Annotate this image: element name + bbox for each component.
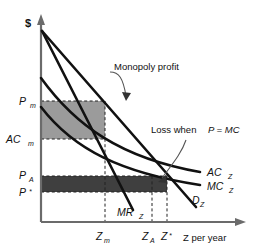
svg-text:P: P <box>19 186 26 198</box>
svg-text:*: * <box>169 232 172 239</box>
y-tick-pstar: P * <box>19 186 32 198</box>
svg-text:Z: Z <box>199 201 205 208</box>
svg-text:AC: AC <box>5 133 21 145</box>
svg-text:Z: Z <box>141 230 149 242</box>
x-tick-za: Z A <box>141 230 155 244</box>
x-axis-arrow <box>235 218 246 226</box>
y-tick-acm: AC m <box>5 133 34 147</box>
svg-text:MC: MC <box>207 180 224 192</box>
svg-text:P: P <box>19 169 26 181</box>
curve-label-dz: D Z <box>192 194 205 208</box>
svg-text:*: * <box>29 188 32 195</box>
y-axis-arrow <box>37 14 45 25</box>
monopoly-profit-arrowhead <box>122 92 131 101</box>
svg-text:Z: Z <box>138 213 144 220</box>
curve-label-mcz: MC Z <box>207 180 234 194</box>
svg-text:P = MC: P = MC <box>208 124 240 135</box>
svg-text:P: P <box>19 95 26 107</box>
curve-label-acz: AC Z <box>206 166 233 180</box>
svg-text:MR: MR <box>117 206 134 218</box>
svg-text:Z: Z <box>228 187 234 194</box>
svg-text:Z: Z <box>160 230 168 242</box>
svg-text:Z: Z <box>227 173 233 180</box>
x-tick-zstar: Z * <box>160 230 172 242</box>
y-tick-pm: P m <box>19 95 36 109</box>
loss-leader <box>162 140 186 178</box>
y-axis-label: $ <box>25 17 31 29</box>
x-tick-zm: Z m <box>95 230 110 244</box>
x-axis-label: Z per year <box>183 232 226 243</box>
loss-region <box>41 176 167 192</box>
svg-text:m: m <box>28 140 34 147</box>
svg-text:A: A <box>28 176 34 183</box>
svg-text:Loss when: Loss when <box>151 124 196 135</box>
svg-text:AC: AC <box>206 166 222 178</box>
annotation-monopoly-profit: Monopoly profit <box>114 61 179 72</box>
svg-text:m: m <box>104 237 110 244</box>
svg-text:m: m <box>30 102 36 109</box>
svg-text:A: A <box>149 237 155 244</box>
svg-text:D: D <box>192 194 200 206</box>
y-tick-pa: P A <box>19 169 34 183</box>
svg-text:Z: Z <box>95 230 103 242</box>
annotation-loss-when: Loss when P = MC <box>151 124 240 135</box>
economics-diagram: $ Z per year P m AC m P A P * Z m Z A Z <box>0 0 256 249</box>
curve-label-mrz: MR Z <box>117 206 144 220</box>
